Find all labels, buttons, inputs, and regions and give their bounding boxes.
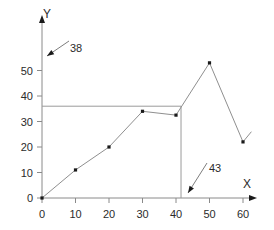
data-point-marker <box>208 61 211 64</box>
y-tick-label-30: 30 <box>21 116 33 128</box>
data-point-marker <box>40 196 43 199</box>
data-point-marker <box>107 145 110 148</box>
y-tick-label-50: 50 <box>21 65 33 77</box>
y-axis-title: Y <box>43 7 51 21</box>
x-tick-label-0: 0 <box>39 208 45 220</box>
x-tick-label-40: 40 <box>170 208 182 220</box>
y-tick-label-40: 40 <box>21 90 33 102</box>
x-tick-label-50: 50 <box>203 208 215 220</box>
y-tick-label-10: 10 <box>21 167 33 179</box>
annotation-38-group: 38 <box>47 41 82 56</box>
data-point-marker <box>174 114 177 117</box>
annotation-43-group: 43 <box>188 162 221 193</box>
data-point-marker <box>74 168 77 171</box>
annotation-38-label: 38 <box>70 42 82 54</box>
chart-container: 0 10 20 30 40 50 0 10 20 30 40 50 60 <box>0 0 274 230</box>
x-axis <box>42 195 257 201</box>
annotation-43-label: 43 <box>209 162 221 174</box>
x-axis-tick-labels: 0 10 20 30 40 50 60 <box>39 208 249 220</box>
series-line-path <box>42 63 243 198</box>
y-axis-ticks <box>37 71 42 199</box>
x-tick-label-20: 20 <box>103 208 115 220</box>
x-axis-arrowhead <box>249 195 257 201</box>
data-point-marker <box>241 140 244 143</box>
x-tick-label-10: 10 <box>69 208 81 220</box>
y-tick-label-20: 20 <box>21 141 33 153</box>
series-marker-group <box>40 61 244 199</box>
x-tick-label-60: 60 <box>237 208 249 220</box>
y-axis-tick-labels: 0 10 20 30 40 50 <box>21 65 33 205</box>
x-axis-title: X <box>243 177 251 191</box>
data-series-group <box>40 61 251 199</box>
x-tick-label-30: 30 <box>136 208 148 220</box>
annotation-43-arrowhead <box>188 186 194 193</box>
chart-plot-area: 0 10 20 30 40 50 0 10 20 30 40 50 60 <box>0 0 274 230</box>
y-tick-label-0: 0 <box>27 192 33 204</box>
x-axis-ticks <box>42 198 243 203</box>
data-point-marker <box>141 110 144 113</box>
reference-lines <box>42 106 181 198</box>
annotation-38-arrowhead <box>47 50 54 56</box>
